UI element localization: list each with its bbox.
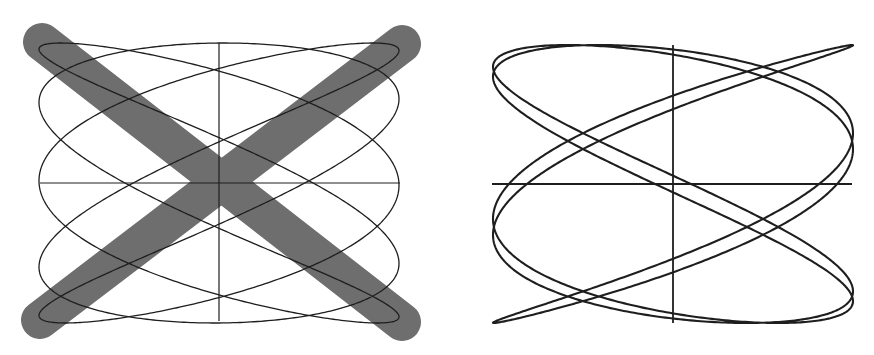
figure-right-correct [437, 0, 874, 355]
figure-left-incorrect [0, 0, 440, 355]
right-figure-canvas [437, 0, 874, 355]
left-figure-canvas [0, 0, 440, 355]
